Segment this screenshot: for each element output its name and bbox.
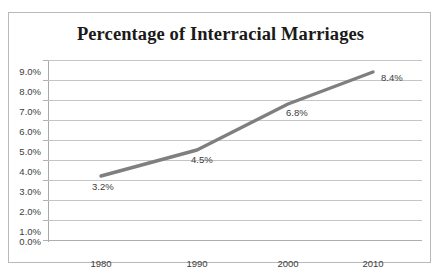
y-axis-tick-label: 0.0% [7,237,41,247]
data-label-1990: 4.5% [191,154,213,165]
y-axis-tick-label: 3.0% [7,187,41,197]
y-axis-tick-label: 7.0% [7,107,41,117]
data-label-1980: 3.2% [92,181,114,192]
y-axis-tick-label: 4.0% [7,167,41,177]
y-axis-tick-label: 2.0% [7,207,41,217]
data-label-2010: 8.4% [381,72,403,83]
x-axis-tick-label: 2010 [343,258,403,269]
y-axis-labels: 9.0% 8.0% 7.0% 6.0% 5.0% 4.0% 3.0% 2.0% … [9,13,41,264]
series-line [48,60,422,241]
y-axis-tick-label: 6.0% [7,127,41,137]
chart-frame: Percentage of Interracial Marriages 9.0%… [8,12,431,263]
data-label-2000: 6.8% [286,107,308,118]
y-axis-tick-label: 9.0% [7,67,41,77]
x-axis-tick-label: 1990 [167,258,227,269]
y-axis-tick-label: 8.0% [7,87,41,97]
y-axis-tick-label: 5.0% [7,147,41,157]
plot-area: 3.2% 4.5% 6.8% 8.4% 1980 1990 2000 2010 [48,60,422,241]
x-axis-tick-label: 2000 [258,258,318,269]
x-axis-tick-label: 1980 [71,258,131,269]
chart-title: Percentage of Interracial Marriages [9,24,432,45]
